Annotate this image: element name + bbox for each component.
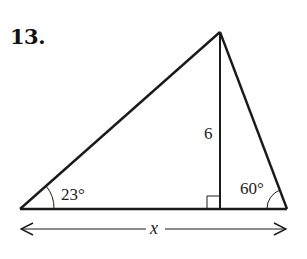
right-angle-arc bbox=[267, 190, 280, 209]
base-length-label: x bbox=[149, 218, 158, 238]
left-angle-arc bbox=[46, 186, 54, 209]
altitude-label: 6 bbox=[204, 124, 213, 143]
right-angle-marker bbox=[207, 196, 220, 209]
triangle-diagram: 6 23° 60° x bbox=[0, 0, 307, 259]
right-angle-label: 60° bbox=[240, 179, 264, 198]
left-angle-label: 23° bbox=[61, 185, 85, 204]
left-side bbox=[20, 32, 220, 209]
